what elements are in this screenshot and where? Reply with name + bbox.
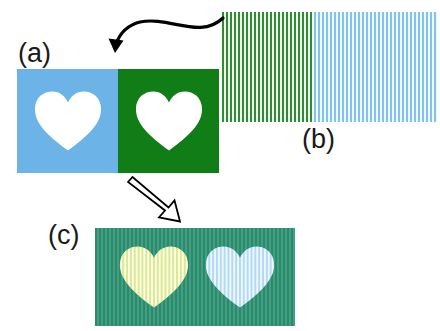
- panel-c: [95, 228, 295, 326]
- heart-icon: [134, 90, 204, 152]
- panel-b-green-stripes: [222, 12, 314, 122]
- panel-a: [17, 69, 219, 173]
- heart-icon: [203, 245, 277, 309]
- panel-a-green-square: [118, 69, 219, 173]
- heart-icon: [33, 90, 103, 152]
- panel-b: [222, 12, 437, 122]
- heart-icon: [117, 245, 191, 309]
- panel-label-a: (a): [18, 40, 51, 67]
- panel-label-c: (c): [48, 222, 79, 249]
- panel-a-blue-square: [17, 69, 118, 173]
- panel-b-blue-stripes: [314, 12, 437, 122]
- panel-label-b: (b): [302, 126, 335, 153]
- figure-canvas: (a) (b) (c): [0, 0, 440, 331]
